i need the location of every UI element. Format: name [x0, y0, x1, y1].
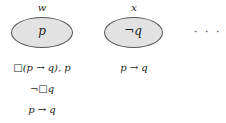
world-w-formula-2: ¬□q — [2, 83, 82, 94]
continuation-ellipsis: · · · — [194, 26, 221, 39]
world-x-label: x — [124, 2, 144, 13]
world-x-content: ¬q — [113, 24, 153, 38]
world-w-content: p — [22, 24, 62, 38]
world-w-formula-3: p → q — [2, 104, 82, 115]
world-w-formula-1: □(p → q), p — [2, 62, 82, 73]
world-x-formula-1: p → q — [94, 62, 174, 73]
world-w-label: w — [32, 2, 52, 13]
